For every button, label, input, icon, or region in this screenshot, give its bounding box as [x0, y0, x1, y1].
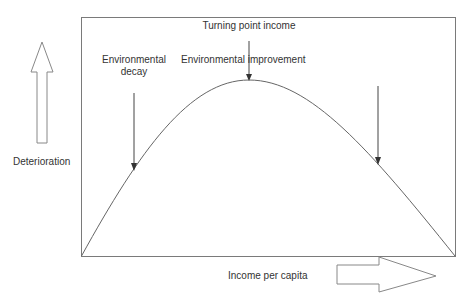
- y-axis-label: Deterioration: [13, 156, 70, 168]
- kuznets-curve: [82, 80, 456, 256]
- kuznets-diagram: [0, 0, 469, 305]
- decay-label-line2: decay: [96, 66, 172, 78]
- decay-label-line1: Environmental: [96, 54, 172, 66]
- x-axis-label: Income per capita: [228, 270, 308, 282]
- decay-pointer-arrowhead-icon: [131, 163, 137, 171]
- deterioration-up-arrow-icon: [31, 42, 53, 143]
- improvement-label: Environmental improvement: [181, 54, 306, 66]
- turning-point-label: Turning point income: [197, 20, 301, 32]
- income-right-arrow-icon: [337, 257, 436, 292]
